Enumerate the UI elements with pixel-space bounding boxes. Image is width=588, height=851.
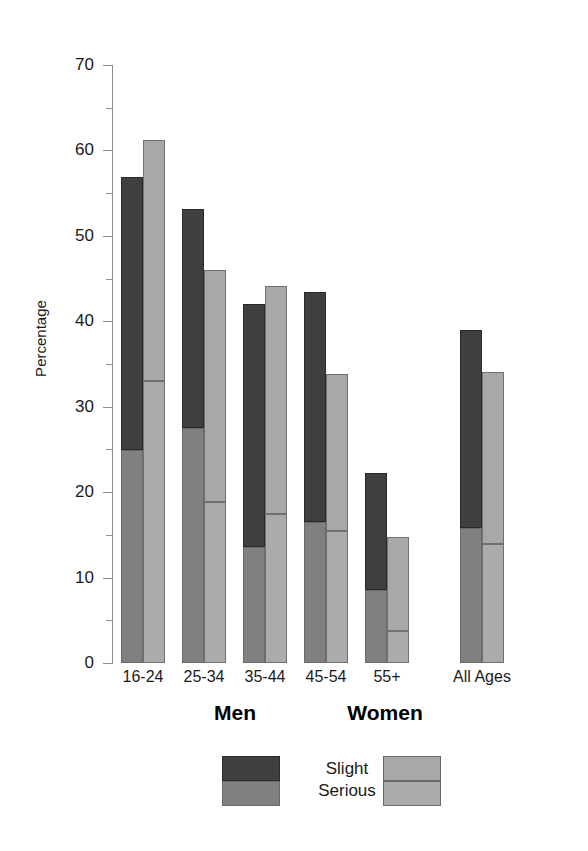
bar-segment-slight xyxy=(143,140,165,381)
bar-all-ages-women xyxy=(482,372,504,663)
bar-25-34-women xyxy=(204,270,226,663)
y-axis-tick-major xyxy=(103,578,112,579)
legend-swatch-men-slight xyxy=(222,756,280,781)
y-axis-tick-label: 40 xyxy=(58,312,94,329)
bar-segment-serious xyxy=(243,547,265,663)
chart-legend: Men Women Slight Serious xyxy=(0,690,588,830)
y-axis-tick-label: 70 xyxy=(58,56,94,73)
bar-55plus-men xyxy=(365,473,387,663)
legend-title-women: Women xyxy=(325,702,445,723)
y-axis-tick-label: 30 xyxy=(58,398,94,415)
bar-segment-slight xyxy=(304,292,326,522)
x-axis-tick-label: All Ages xyxy=(437,669,527,685)
bar-segment-serious xyxy=(482,544,504,663)
legend-key-serious: Serious xyxy=(292,780,402,802)
plot-area: 16-2425-3435-4445-5455+All Ages xyxy=(112,65,552,663)
bar-55plus-women xyxy=(387,537,409,663)
y-axis-tick-major xyxy=(103,407,112,408)
legend-swatch-men-serious xyxy=(222,781,280,806)
y-axis-tick-major xyxy=(103,492,112,493)
bar-segment-slight xyxy=(326,374,348,530)
bar-segment-slight xyxy=(204,270,226,502)
bar-16-24-women xyxy=(143,140,165,663)
bar-segment-slight xyxy=(265,286,287,514)
bar-35-44-women xyxy=(265,286,287,663)
bar-segment-serious xyxy=(265,514,287,663)
y-axis-tick-major xyxy=(103,321,112,322)
bar-segment-serious xyxy=(365,590,387,663)
y-axis-tick-label: 0 xyxy=(58,654,94,671)
x-axis-tick-label: 55+ xyxy=(342,669,432,685)
y-axis-tick-label: 20 xyxy=(58,483,94,500)
bar-35-44-men xyxy=(243,304,265,663)
bar-45-54-men xyxy=(304,292,326,663)
bar-segment-serious xyxy=(460,528,482,663)
y-axis-title: Percentage xyxy=(32,259,49,419)
bar-16-24-men xyxy=(121,177,143,663)
y-axis-tick-label: 10 xyxy=(58,569,94,586)
bar-45-54-women xyxy=(326,374,348,663)
bar-segment-slight xyxy=(460,330,482,528)
y-axis-tick-label: 50 xyxy=(58,227,94,244)
bar-chart: 010203040506070 Percentage 16-2425-3435-… xyxy=(0,0,588,851)
bar-segment-serious xyxy=(143,381,165,663)
bar-segment-serious xyxy=(387,631,409,663)
bar-segment-serious xyxy=(182,428,204,663)
y-axis-tick-major xyxy=(103,65,112,66)
bar-segment-serious xyxy=(121,450,143,663)
bar-segment-slight xyxy=(482,372,504,545)
y-axis-tick-major xyxy=(103,150,112,151)
y-axis-tick-major xyxy=(103,663,112,664)
bar-segment-slight xyxy=(387,537,409,630)
y-axis-tick-major xyxy=(103,236,112,237)
legend-key-slight: Slight xyxy=(292,758,402,780)
bar-segment-slight xyxy=(121,177,143,450)
bar-segment-serious xyxy=(204,502,226,663)
bar-segment-slight xyxy=(365,473,387,589)
legend-swatch-men xyxy=(222,756,280,806)
bar-segment-slight xyxy=(243,304,265,547)
bar-25-34-men xyxy=(182,209,204,663)
bar-all-ages-men xyxy=(460,330,482,663)
bar-segment-slight xyxy=(182,209,204,429)
legend-title-men: Men xyxy=(180,702,290,723)
y-axis-tick-label: 60 xyxy=(58,141,94,158)
bar-segment-serious xyxy=(326,531,348,663)
bar-segment-serious xyxy=(304,522,326,663)
